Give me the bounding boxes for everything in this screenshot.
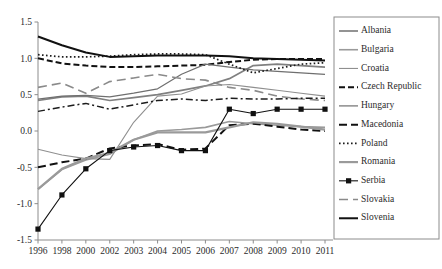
series-marker-serbia — [83, 166, 88, 171]
chart-container: 1.51.00.50.0-0.5-1.0-1.51996199820002002… — [0, 0, 442, 269]
y-tick-label: -0.5 — [17, 163, 32, 173]
y-tick-label: 0.5 — [20, 90, 32, 100]
legend-label-poland: Poland — [361, 138, 388, 148]
x-tick-label: 2008 — [244, 246, 263, 256]
y-tick-label: 1.5 — [20, 17, 32, 27]
series-marker-serbia — [203, 148, 208, 153]
series-marker-serbia — [59, 192, 64, 197]
x-tick-label: 2010 — [292, 246, 311, 256]
legend-label-czech-republic: Czech Republic — [361, 81, 421, 91]
series-line-poland — [38, 54, 325, 73]
series-marker-serbia — [322, 107, 327, 112]
series-marker-serbia — [298, 107, 303, 112]
series-marker-serbia — [107, 148, 112, 153]
legend-label-hungary: Hungary — [361, 100, 394, 110]
x-tick-label: 1998 — [52, 246, 71, 256]
series-marker-serbia — [275, 107, 280, 112]
series-marker-serbia — [251, 111, 256, 116]
legend-label-croatia: Croatia — [361, 63, 390, 73]
legend-label-slovakia: Slovakia — [361, 194, 395, 204]
x-tick-label: 1996 — [29, 246, 48, 256]
series-line-romania — [38, 122, 325, 189]
y-tick-label: -1.5 — [17, 235, 32, 245]
series-marker-serbia — [227, 107, 232, 112]
x-tick-label: 2002 — [100, 246, 119, 256]
x-tick-label: 2007 — [220, 246, 239, 256]
y-tick-label: 0.0 — [20, 126, 32, 136]
legend-label-macedonia: Macedonia — [361, 119, 404, 129]
series-marker-serbia — [131, 144, 136, 149]
line-chart: 1.51.00.50.0-0.5-1.0-1.51996199820002002… — [0, 0, 442, 269]
legend-label-bulgaria: Bulgaria — [361, 44, 394, 54]
legend-label-serbia: Serbia — [361, 175, 386, 185]
x-tick-label: 2004 — [148, 246, 167, 256]
x-tick-label: 2006 — [196, 246, 215, 256]
x-tick-label: 2009 — [268, 246, 287, 256]
x-tick-label: 2005 — [172, 246, 191, 256]
legend-label-slovenia: Slovenia — [361, 212, 395, 222]
legend-label-albania: Albania — [361, 25, 392, 35]
series-marker-serbia — [155, 143, 160, 148]
series-marker-serbia — [35, 227, 40, 232]
series-line-slovenia — [38, 37, 325, 61]
x-tick-label: 2000 — [76, 246, 95, 256]
y-tick-label: 1.0 — [20, 54, 32, 64]
series-marker-serbia — [179, 148, 184, 153]
legend-marker-serbia — [346, 178, 351, 183]
y-tick-label: -1.0 — [17, 199, 32, 209]
x-tick-label: 2011 — [316, 246, 335, 256]
x-tick-label: 2003 — [124, 246, 143, 256]
legend-label-romania: Romania — [361, 156, 396, 166]
